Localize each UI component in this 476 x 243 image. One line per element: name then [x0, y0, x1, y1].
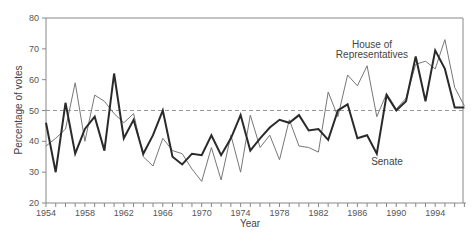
line-chart: 20304050607080 1954195819621966197019741… [0, 0, 476, 243]
x-tick-label: 1970 [192, 208, 212, 218]
y-tick-label: 70 [29, 44, 39, 54]
x-tick-label: 1986 [347, 208, 367, 218]
senate-label: Senate [371, 156, 403, 167]
senate-series-line [46, 50, 464, 172]
x-tick-label: 1958 [75, 208, 95, 218]
x-axis-title: Year [240, 218, 261, 229]
y-axis: 20304050607080 [29, 13, 46, 208]
x-tick-label: 1982 [308, 208, 328, 218]
x-tick-label: 1978 [270, 208, 290, 218]
x-axis: 1954195819621966197019741978198219861990… [36, 203, 464, 218]
y-tick-label: 30 [29, 167, 39, 177]
y-axis-title: Percentage of votes [13, 66, 24, 155]
x-tick-label: 1966 [153, 208, 173, 218]
y-tick-label: 80 [29, 13, 39, 23]
x-tick-label: 1954 [36, 208, 56, 218]
y-tick-label: 20 [29, 198, 39, 208]
x-tick-label: 1962 [114, 208, 134, 218]
house-label-line2: Representatives [336, 49, 408, 60]
x-tick-label: 1994 [425, 208, 445, 218]
y-tick-label: 50 [29, 106, 39, 116]
x-tick-label: 1974 [231, 208, 251, 218]
x-tick-label: 1990 [386, 208, 406, 218]
y-tick-label: 60 [29, 75, 39, 85]
y-tick-label: 40 [29, 136, 39, 146]
